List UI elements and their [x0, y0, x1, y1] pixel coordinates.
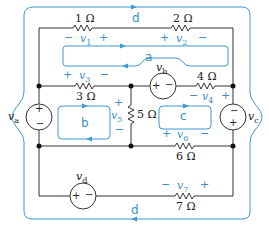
loop-b-arrow-bottom — [86, 137, 92, 142]
circuit-diagram: 1 Ω 2 Ω 3 Ω 4 Ω 5 Ω 6 Ω 7 Ω va + − vc − … — [0, 0, 269, 232]
v3-plus: + — [63, 69, 72, 80]
source-vd-plus: + — [72, 191, 80, 201]
source-vd-label: vd — [76, 171, 87, 185]
resistor-1-label: 1 Ω — [75, 13, 95, 24]
v5-plus: + — [114, 97, 123, 108]
source-vb-label: vb — [156, 62, 167, 76]
source-vc-minus: − — [230, 106, 238, 116]
loop-d-arrow-top — [131, 5, 137, 10]
v1-minus: − — [64, 32, 73, 43]
loop-a-arrow-bottom — [122, 64, 128, 69]
v5-minus: − — [115, 124, 124, 135]
resistor-4-label: 4 Ω — [197, 71, 217, 82]
resistor-5-label: 5 Ω — [137, 109, 157, 120]
source-va-label: va — [8, 111, 19, 125]
resistor-3-label: 3 Ω — [76, 91, 96, 102]
loop-c-arrow-top — [183, 104, 189, 109]
v3-minus: − — [100, 69, 109, 80]
v2-minus: − — [198, 32, 207, 43]
loop-d-label-top: d — [132, 12, 140, 24]
wires — [39, 25, 233, 199]
v6-plus: + — [162, 128, 171, 139]
v6-minus: − — [200, 128, 209, 139]
loop-b-label: b — [81, 117, 89, 129]
v7-plus: + — [200, 179, 209, 190]
source-vd-minus: − — [85, 190, 93, 200]
v4-plus: + — [221, 90, 230, 101]
v3-label: v3 — [79, 70, 90, 84]
v4-minus: − — [189, 90, 198, 101]
v6-label: v6 — [177, 129, 188, 143]
resistor-6-label: 6 Ω — [176, 151, 196, 162]
v1-label: v1 — [80, 33, 91, 47]
v4-label: v4 — [202, 91, 213, 105]
source-va-plus: + — [35, 104, 43, 114]
source-vb-plus: + — [152, 81, 160, 91]
source-vc-plus: + — [229, 118, 237, 128]
source-va-minus: − — [36, 119, 44, 129]
loop-a-label: a — [145, 51, 152, 63]
loop-d-label-bottom: d — [131, 204, 139, 216]
v7-minus: − — [161, 179, 170, 190]
v1-plus: + — [99, 32, 108, 43]
source-vb-minus: − — [165, 80, 173, 90]
loop-b-arrow-top — [82, 104, 88, 109]
source-vc-label: vc — [248, 111, 259, 125]
loop-a-arrow-top — [120, 44, 126, 49]
resistor-7-label: 7 Ω — [176, 201, 196, 212]
v7-label: v7 — [177, 180, 188, 194]
circuit-svg — [0, 0, 269, 232]
v2-label: v2 — [176, 33, 187, 47]
loop-c-label: c — [180, 110, 187, 122]
resistor-2-label: 2 Ω — [173, 13, 193, 24]
v2-plus: + — [160, 32, 169, 43]
loop-d-arrow-bottom — [131, 217, 137, 222]
